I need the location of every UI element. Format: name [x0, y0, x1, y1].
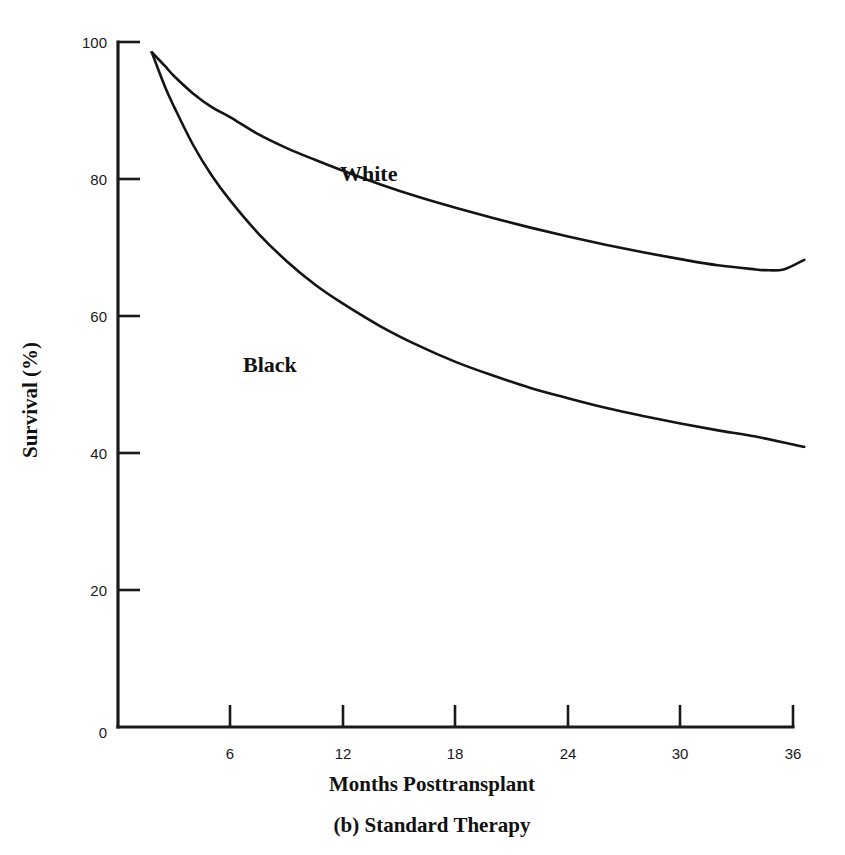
- y-tick-label-0: 0: [99, 724, 107, 741]
- series-label-white: White: [340, 161, 398, 186]
- series-annotations: White Black: [243, 161, 398, 377]
- x-axis-title: Months Posttransplant: [329, 772, 535, 796]
- x-tick-label-24: 24: [560, 745, 577, 762]
- survival-chart-figure: 100 80 60 40 20 0 6 12 18 24 30 36: [0, 0, 845, 855]
- survival-curve-white: [152, 52, 805, 270]
- y-tick-label-60: 60: [90, 308, 107, 325]
- x-tick-label-36: 36: [785, 745, 802, 762]
- x-tick-label-12: 12: [335, 745, 352, 762]
- y-tick-label-40: 40: [90, 445, 107, 462]
- chart-canvas: 100 80 60 40 20 0 6 12 18 24 30 36: [0, 0, 845, 855]
- y-tick-label-20: 20: [90, 582, 107, 599]
- x-tick-label-6: 6: [226, 745, 234, 762]
- y-axis: 100 80 60 40 20 0: [82, 34, 140, 741]
- y-tick-label-80: 80: [90, 171, 107, 188]
- figure-caption: (b) Standard Therapy: [334, 813, 531, 837]
- x-tick-label-30: 30: [672, 745, 689, 762]
- y-tick-label-100: 100: [82, 34, 107, 51]
- x-axis: 6 12 18 24 30 36: [118, 705, 801, 762]
- data-curves: [152, 52, 805, 447]
- series-label-black: Black: [243, 352, 298, 377]
- survival-curve-black: [152, 52, 805, 447]
- x-tick-label-18: 18: [447, 745, 464, 762]
- y-axis-title: Survival (%): [18, 342, 42, 458]
